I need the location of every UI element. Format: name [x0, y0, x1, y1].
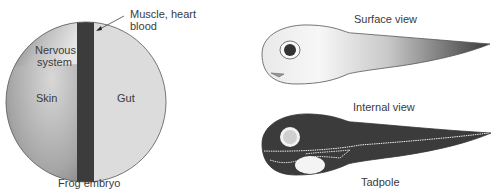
- label-surface-view: Surface view: [354, 13, 417, 25]
- diagram-canvas: [0, 0, 495, 191]
- label-skin: Skin: [36, 92, 57, 104]
- label-nervous-line2: system: [37, 56, 72, 68]
- gut-region: [92, 20, 192, 190]
- gut-cavity: [295, 156, 325, 174]
- label-tadpole: Tadpole: [361, 176, 400, 188]
- tadpole-surface-view: [262, 25, 490, 84]
- label-gut: Gut: [117, 92, 135, 104]
- tadpole-internal-view: [262, 114, 491, 175]
- muscle-heart-blood-band: [77, 20, 94, 190]
- label-muscle-line1: Muscle, heart: [130, 8, 196, 20]
- label-muscle-line2: blood: [130, 20, 157, 32]
- label-frog-embryo: Frog embryo: [58, 177, 120, 189]
- label-nervous-line1: Nervous: [35, 44, 76, 56]
- label-internal-view: Internal view: [353, 101, 415, 113]
